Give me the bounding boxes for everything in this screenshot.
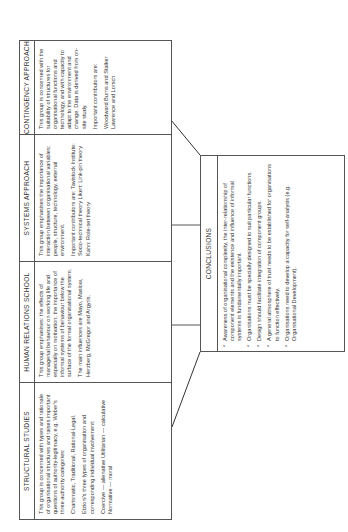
- column-text: This group is concerned with types and r…: [38, 388, 66, 514]
- column-text: The main influences are Mayo, Maslow, He…: [77, 267, 91, 377]
- rotated-diagram: STRUCTURAL STUDIES This group is concern…: [0, 0, 348, 532]
- column-human-relations-school: HUMAN RELATIONS SCHOOL This group emphas…: [20, 261, 171, 382]
- column-header: HUMAN RELATIONS SCHOOL: [20, 262, 35, 382]
- column-structural-studies: STRUCTURAL STUDIES This group is concern…: [20, 382, 171, 519]
- column-header: SYSTEMS APPROACH: [20, 135, 35, 261]
- column-text: Important contributors are: Tavistock In…: [70, 140, 91, 256]
- column-text: Charismatic, Traditional, Rational-Legal…: [70, 388, 77, 514]
- conclusions-header: CONCLUSIONS: [201, 156, 218, 351]
- column-systems-approach: SYSTEMS APPROACH This group emphasises t…: [20, 134, 171, 261]
- column-text: Etzioni's three types of organisation an…: [81, 388, 95, 514]
- column-header: CONTINGENCY APPROACH: [20, 41, 35, 134]
- conclusions-box: CONCLUSIONS Awareness of organisational …: [200, 155, 345, 352]
- column-text: Important contributors are:: [92, 46, 99, 129]
- column-text: This group emphasises the importance of …: [38, 140, 66, 256]
- conclusion-item: Organisations need to develop a capacity…: [284, 162, 298, 341]
- column-text: This group emphasises: the effects of ma…: [38, 267, 73, 377]
- column-text: Coercive — alienative Utilitarian — calc…: [100, 388, 114, 514]
- column-text: Woodward Burns and Stalker Lawrence and …: [103, 46, 117, 129]
- conclusion-item: A general atmosphere of trust needs to b…: [266, 162, 280, 341]
- column-text: This group is concerned with the suitabi…: [38, 46, 88, 129]
- conclusion-item: Organisations must be specially designed…: [246, 162, 253, 341]
- column-contingency-approach: CONTINGENCY APPROACH This group is conce…: [20, 41, 171, 134]
- conclusion-item: Design should facilitate integration of …: [256, 162, 263, 341]
- conclusion-item: Awareness of organisational complexity, …: [222, 162, 243, 341]
- column-header: STRUCTURAL STUDIES: [20, 383, 35, 519]
- approaches-table: STRUCTURAL STUDIES This group is concern…: [19, 40, 172, 520]
